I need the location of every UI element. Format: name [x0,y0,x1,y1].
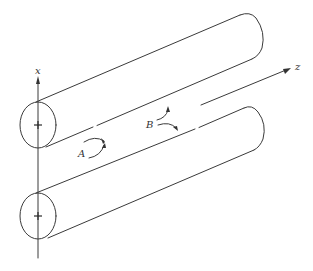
curved-arrow-icon [158,124,176,128]
curved-arrow-icon [89,145,104,158]
upper-conductor-plus-icon [34,121,42,129]
curved-arrow-icon [84,138,104,142]
point-b: B [145,106,178,131]
z-axis-arrow-icon [283,68,291,74]
point-b-label: B [145,119,153,130]
z-axis-label: z [294,61,301,72]
x-axis-arrow-icon [36,76,40,84]
lower-conductor [20,107,264,239]
two-wire-line-diagram: x z A [0,0,313,271]
x-axis: x [35,65,41,258]
point-a-label: A [77,148,85,159]
lower-conductor-plus-icon [34,212,42,220]
x-axis-label: x [35,65,41,76]
point-a: A [77,138,106,159]
z-axis: z [201,61,301,105]
upper-conductor [20,14,263,148]
